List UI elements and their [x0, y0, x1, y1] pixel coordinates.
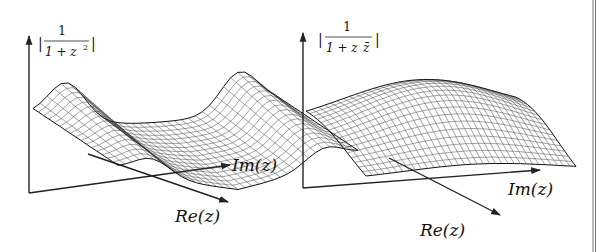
mesh-line-v	[70, 105, 310, 152]
mesh-line-u	[337, 101, 397, 172]
left-label-numerator: 1	[58, 24, 66, 38]
left-label-denominator: 1 + z	[45, 45, 77, 59]
figure: | 1 1 + z 2 | Im(z) Re(z) | 1 1 + z z̄ |…	[0, 0, 599, 252]
right-im-label: Im(z)	[507, 179, 553, 199]
mesh-line-v	[340, 114, 550, 144]
right-label-conjugate: z̄	[362, 41, 370, 55]
left-saddle-surface	[33, 72, 358, 189]
right-label-numerator: 1	[343, 20, 351, 34]
mesh-line-v	[44, 82, 284, 132]
mesh-line-v	[366, 164, 576, 177]
right-dome-surface	[306, 80, 576, 177]
left-re-label: Re(z)	[174, 206, 220, 226]
mesh-line-v	[314, 81, 524, 116]
mesh-line-v	[49, 86, 289, 135]
right-panel: | 1 1 + z z̄ | Im(z) Re(z)	[303, 20, 576, 240]
mesh-line-v	[54, 91, 294, 140]
mesh-line-v	[76, 110, 316, 157]
left-im-label: Im(z)	[231, 155, 277, 175]
right-function-label: | 1 1 + z z̄ |	[318, 20, 380, 55]
mesh-line-u	[325, 105, 385, 174]
left-label-exponent: 2	[83, 43, 88, 52]
right-im-axis	[303, 170, 540, 188]
right-re-label: Re(z)	[419, 220, 465, 240]
right-label-bar-close: |	[375, 31, 380, 48]
mesh-line-v	[306, 80, 516, 112]
left-label-bar-close: |	[91, 35, 96, 52]
left-panel: | 1 1 + z 2 | Im(z) Re(z)	[29, 24, 358, 226]
right-label-denominator: 1 + z	[326, 41, 358, 55]
mesh-line-v	[347, 129, 557, 153]
mesh-line-u	[405, 81, 465, 165]
mesh-line-u	[312, 109, 372, 175]
left-label-bar-open: |	[38, 35, 43, 52]
mesh-line-v	[38, 77, 278, 128]
mesh-line-v	[102, 133, 342, 177]
right-label-bar-open: |	[318, 31, 323, 48]
left-function-label: | 1 1 + z 2 |	[38, 24, 96, 59]
